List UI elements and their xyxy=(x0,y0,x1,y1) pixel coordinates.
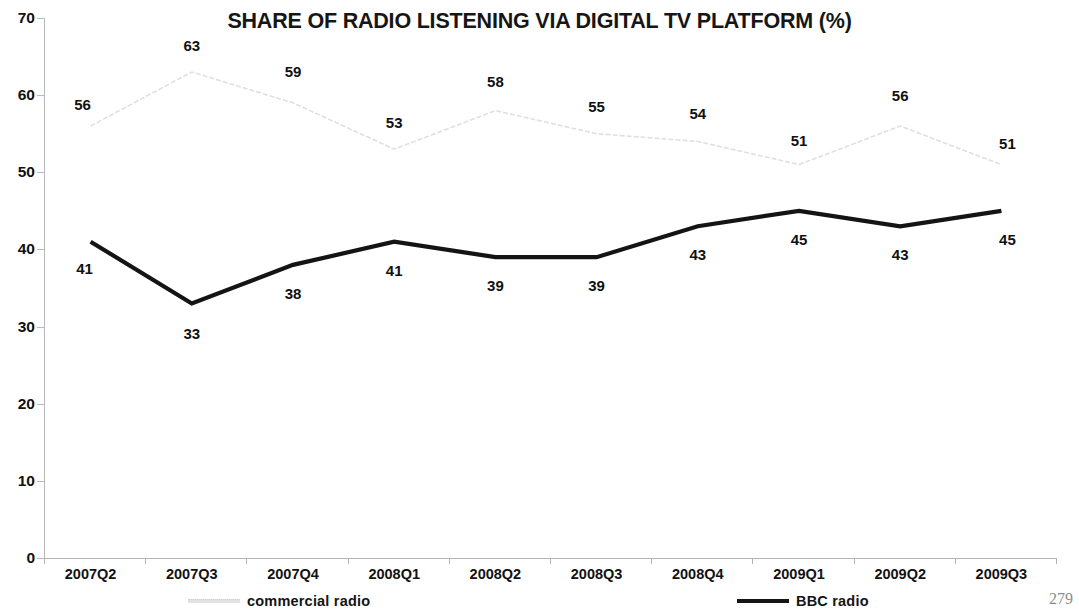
point-value-label: 41 xyxy=(386,261,403,278)
series-line-commercial-radio xyxy=(91,72,1002,165)
legend-swatch-icon xyxy=(188,599,240,603)
page-number: 279 xyxy=(1049,590,1073,608)
point-value-label: 45 xyxy=(791,230,808,247)
point-value-label: 43 xyxy=(689,246,706,263)
point-value-label: 54 xyxy=(689,105,706,122)
point-value-label: 55 xyxy=(588,97,605,114)
point-value-label: 63 xyxy=(183,37,200,54)
point-value-label: 33 xyxy=(183,325,200,342)
point-value-label: 51 xyxy=(791,131,808,148)
legend-item-commercial-radio[interactable]: commercial radio xyxy=(188,588,370,614)
point-value-label: 39 xyxy=(588,277,605,294)
legend: commercial radioBBC radio xyxy=(0,588,1079,614)
point-value-label: 56 xyxy=(892,87,909,104)
point-value-label: 41 xyxy=(76,259,93,276)
point-value-label: 38 xyxy=(285,284,302,301)
point-value-label: 58 xyxy=(487,72,504,89)
point-value-label: 53 xyxy=(386,114,403,131)
series-line-bbc-radio xyxy=(91,211,1002,304)
point-value-label: 39 xyxy=(487,277,504,294)
point-value-label: 43 xyxy=(892,246,909,263)
point-value-label: 56 xyxy=(74,96,91,113)
legend-item-bbc-radio[interactable]: BBC radio xyxy=(737,588,869,614)
point-value-label: 45 xyxy=(999,230,1016,247)
chart-page: SHARE OF RADIO LISTENING VIA DIGITAL TV … xyxy=(0,0,1079,614)
legend-label: commercial radio xyxy=(247,593,370,609)
legend-label: BBC radio xyxy=(796,593,869,609)
point-value-label: 59 xyxy=(285,62,302,79)
series-lines xyxy=(0,0,1079,614)
point-value-label: 51 xyxy=(999,134,1016,151)
legend-swatch-icon xyxy=(737,599,789,603)
